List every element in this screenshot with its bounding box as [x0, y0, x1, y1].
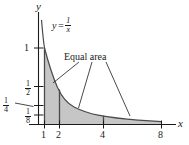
y-tick-label-1: 1	[24, 43, 29, 53]
equation-relation: =	[57, 21, 64, 31]
fraction-one-quarter-denominator: 4	[3, 106, 9, 114]
fraction-one-quarter: 1 4	[3, 97, 9, 114]
fraction-one-eighth: 1 8	[25, 108, 31, 125]
equation-denominator: x	[65, 26, 71, 34]
leader-line-one-quarter	[15, 103, 34, 107]
annotation-pointer-region-2	[79, 62, 93, 108]
y-axis-label: y	[36, 1, 41, 12]
x-tick-label-4: 4	[100, 130, 105, 140]
equation-fraction: 1 x	[65, 17, 71, 34]
y-tick-label-one-quarter: 1 4	[3, 96, 9, 114]
annotation-pointer-region-3	[106, 62, 130, 116]
y-tick-label-one-half: 1 2	[25, 79, 31, 97]
equal-area-annotation: Equal area	[64, 52, 106, 62]
fraction-one-half: 1 2	[25, 80, 31, 97]
x-axis-label: x	[178, 118, 183, 129]
equation-lhs: y	[52, 21, 56, 31]
annotation-pointer-region-1	[53, 62, 79, 83]
x-tick-label-8: 8	[158, 130, 163, 140]
x-tick-label-2: 2	[56, 130, 61, 140]
curve-equation-label: y = 1 x	[52, 17, 71, 34]
fraction-one-half-denominator: 2	[25, 89, 31, 97]
figure-graph-one-over-x: y x y = 1 x Equal area 1 1 2 1 4 1 8 1 2…	[0, 0, 189, 145]
x-tick-label-1: 1	[41, 130, 46, 140]
y-tick-label-one-eighth: 1 8	[25, 107, 31, 125]
fraction-one-eighth-denominator: 8	[25, 117, 31, 125]
